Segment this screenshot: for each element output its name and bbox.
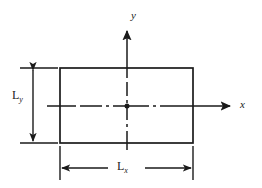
dimension-label-lx: Lx [117,160,128,175]
rectangle-cross-section-diagram [0,0,262,188]
origin-dot-icon [125,104,130,109]
lx-subscript: x [124,166,128,175]
ly-subscript: y [19,95,23,104]
dimension-label-ly: Ly [12,89,23,104]
figure-canvas: y x Ly Lx [0,0,262,188]
y-axis-label: y [131,10,136,21]
x-axis-label: x [240,99,245,110]
